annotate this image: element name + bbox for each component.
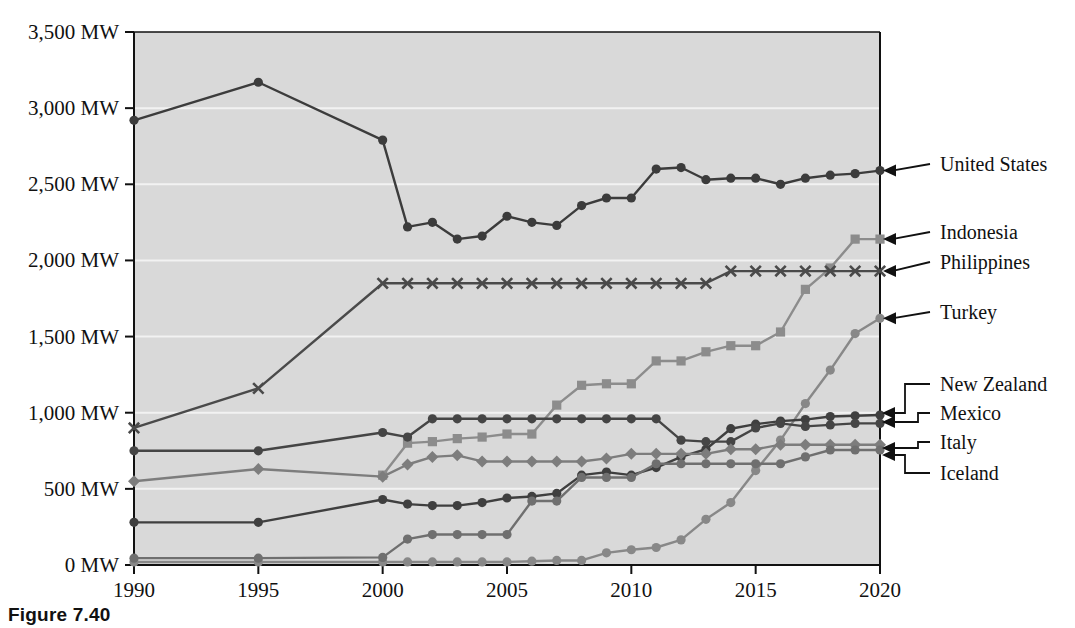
data-point-marker bbox=[751, 341, 760, 350]
callout-label-mexico: Mexico bbox=[940, 402, 1001, 424]
data-point-marker bbox=[453, 414, 462, 423]
data-point-marker bbox=[826, 420, 835, 429]
data-point-marker bbox=[478, 231, 487, 240]
data-point-marker bbox=[851, 445, 860, 454]
data-point-marker bbox=[627, 545, 636, 554]
data-point-marker bbox=[701, 347, 710, 356]
data-point-marker bbox=[851, 235, 860, 244]
data-point-marker bbox=[453, 434, 462, 443]
y-axis-tick-label: 2,000 MW bbox=[28, 248, 119, 272]
data-point-marker bbox=[453, 557, 462, 566]
data-point-marker bbox=[502, 557, 511, 566]
data-point-marker bbox=[627, 193, 636, 202]
y-axis-tick-label: 2,500 MW bbox=[28, 172, 119, 196]
data-point-marker bbox=[851, 169, 860, 178]
data-point-marker bbox=[254, 78, 263, 87]
data-point-marker bbox=[502, 429, 511, 438]
data-point-marker bbox=[826, 445, 835, 454]
data-point-marker bbox=[875, 445, 884, 454]
callout-label-italy: Italy bbox=[940, 431, 977, 454]
x-axis-tick-label: 1990 bbox=[113, 578, 155, 602]
callout-leader-line bbox=[892, 232, 930, 239]
data-point-marker bbox=[254, 554, 263, 563]
data-point-marker bbox=[826, 365, 835, 374]
callout-layer bbox=[882, 164, 930, 473]
data-point-marker bbox=[577, 201, 586, 210]
data-point-marker bbox=[403, 499, 412, 508]
callout-label-iceland: Iceland bbox=[940, 462, 999, 484]
data-point-marker bbox=[453, 235, 462, 244]
data-point-marker bbox=[577, 556, 586, 565]
callout-arrowhead bbox=[883, 233, 896, 245]
x-axis-tick-label: 2000 bbox=[362, 578, 404, 602]
callout-labels: United StatesIndonesiaPhilippinesTurkeyN… bbox=[940, 153, 1047, 484]
data-point-marker bbox=[627, 473, 636, 482]
data-point-marker bbox=[602, 379, 611, 388]
x-axis-tick-labels: 1990199520002005201020152020 bbox=[113, 578, 901, 602]
callout-indonesia bbox=[883, 232, 930, 245]
callout-leader-line bbox=[892, 164, 930, 171]
x-axis-tick-label: 2010 bbox=[610, 578, 652, 602]
data-point-marker bbox=[428, 218, 437, 227]
figure-caption: Figure 7.40 bbox=[8, 604, 111, 626]
callout-united-states bbox=[883, 164, 930, 177]
callout-leader-line bbox=[894, 442, 930, 448]
data-point-marker bbox=[652, 543, 661, 552]
data-point-marker bbox=[701, 175, 710, 184]
figure-container: 3,500 MW3,000 MW2,500 MW2,000 MW1,500 MW… bbox=[0, 0, 1075, 628]
callout-leader-line bbox=[892, 312, 930, 318]
data-point-marker bbox=[676, 535, 685, 544]
data-point-marker bbox=[751, 174, 760, 183]
callout-leader-line bbox=[894, 455, 930, 473]
data-point-marker bbox=[751, 459, 760, 468]
data-point-marker bbox=[527, 496, 536, 505]
callout-arrowhead bbox=[883, 165, 896, 177]
callout-label-turkey: Turkey bbox=[940, 301, 997, 324]
data-point-marker bbox=[875, 419, 884, 428]
callout-label-united-states: United States bbox=[940, 153, 1047, 175]
data-point-marker bbox=[129, 116, 138, 125]
data-point-marker bbox=[726, 424, 735, 433]
data-point-marker bbox=[478, 432, 487, 441]
data-point-marker bbox=[801, 399, 810, 408]
data-point-marker bbox=[428, 501, 437, 510]
data-point-marker bbox=[453, 501, 462, 510]
data-point-marker bbox=[552, 414, 561, 423]
callout-arrowhead bbox=[882, 416, 895, 428]
x-axis-tick-label: 1995 bbox=[237, 578, 279, 602]
data-point-marker bbox=[254, 518, 263, 527]
data-point-marker bbox=[129, 554, 138, 563]
data-point-marker bbox=[776, 327, 785, 336]
y-axis-tick-labels: 3,500 MW3,000 MW2,500 MW2,000 MW1,500 MW… bbox=[28, 20, 119, 577]
data-point-marker bbox=[826, 171, 835, 180]
data-point-marker bbox=[701, 437, 710, 446]
data-point-marker bbox=[428, 530, 437, 539]
data-point-marker bbox=[602, 193, 611, 202]
data-point-marker bbox=[875, 410, 884, 419]
data-point-marker bbox=[851, 329, 860, 338]
data-point-marker bbox=[652, 164, 661, 173]
callout-philippines bbox=[883, 262, 930, 277]
data-point-marker bbox=[478, 530, 487, 539]
data-point-marker bbox=[801, 285, 810, 294]
data-point-marker bbox=[527, 218, 536, 227]
data-point-marker bbox=[701, 515, 710, 524]
data-point-marker bbox=[676, 436, 685, 445]
data-point-marker bbox=[378, 495, 387, 504]
x-axis-tick-label: 2015 bbox=[735, 578, 777, 602]
data-point-marker bbox=[129, 518, 138, 527]
data-point-marker bbox=[801, 422, 810, 431]
data-point-marker bbox=[577, 473, 586, 482]
data-point-marker bbox=[602, 414, 611, 423]
data-point-marker bbox=[627, 379, 636, 388]
callout-leader-line bbox=[894, 413, 930, 422]
data-point-marker bbox=[676, 163, 685, 172]
data-point-marker bbox=[478, 414, 487, 423]
data-point-marker bbox=[527, 429, 536, 438]
data-point-marker bbox=[701, 459, 710, 468]
data-point-marker bbox=[403, 432, 412, 441]
callout-turkey bbox=[883, 312, 930, 324]
data-point-marker bbox=[552, 556, 561, 565]
data-point-marker bbox=[726, 498, 735, 507]
data-point-marker bbox=[726, 174, 735, 183]
